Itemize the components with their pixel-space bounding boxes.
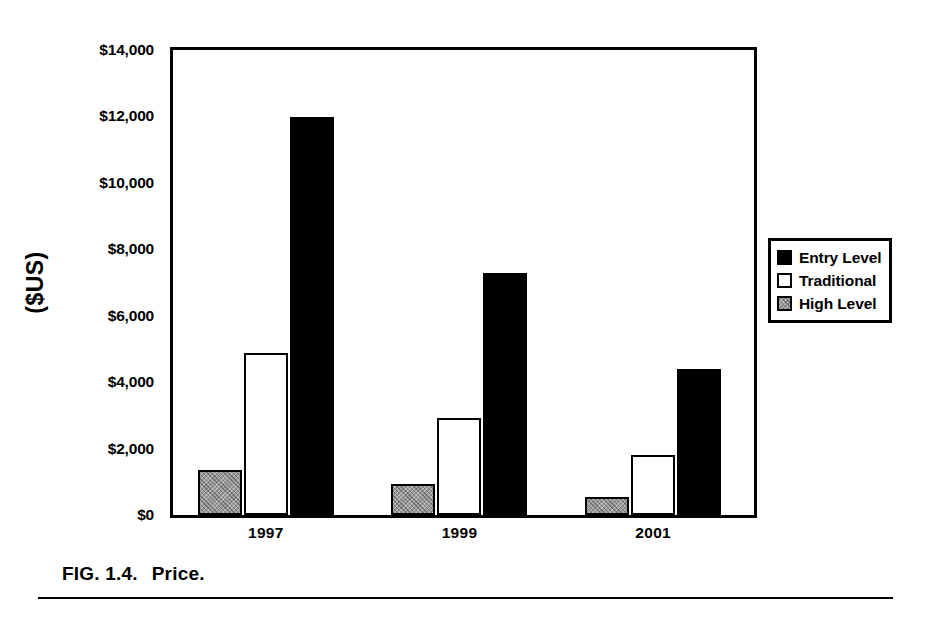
bar — [437, 418, 481, 515]
figure-caption-text: Price. — [152, 563, 205, 584]
figure-caption: FIG. 1.4.Price. — [62, 563, 205, 585]
bar — [677, 369, 721, 515]
chart-legend: Entry LevelTraditionalHigh Level — [768, 238, 892, 323]
y-axis-tick: $10,000 — [0, 174, 162, 192]
bar — [391, 484, 435, 515]
bar — [244, 353, 288, 515]
bar-group — [173, 50, 367, 515]
figure-caption-number: FIG. 1.4. — [62, 563, 138, 584]
y-axis-tick: $14,000 — [0, 41, 162, 59]
y-axis-tick: $8,000 — [0, 240, 162, 258]
legend-swatch-icon — [777, 273, 792, 288]
legend-item: Entry Level — [777, 246, 881, 269]
bar — [198, 470, 242, 516]
y-axis-tick: $0 — [0, 506, 162, 524]
y-axis-tick: $2,000 — [0, 440, 162, 458]
bar — [483, 273, 527, 515]
y-axis-tick: $6,000 — [0, 307, 162, 325]
legend-item-label: High Level — [799, 295, 876, 313]
legend-swatch-icon — [777, 250, 792, 265]
legend-item: Traditional — [777, 269, 881, 292]
x-axis-tick: 1997 — [248, 524, 284, 542]
legend-item-label: Entry Level — [799, 249, 881, 267]
bar — [290, 117, 334, 515]
y-axis-tick: $4,000 — [0, 373, 162, 391]
figure-container: ($US) $0$2,000$4,000$6,000$8,000$10,000$… — [0, 0, 927, 622]
bars-layer — [173, 50, 754, 515]
bar-group — [560, 50, 754, 515]
x-axis-tick-labels: 199719992001 — [170, 524, 757, 552]
x-axis-tick: 1999 — [442, 524, 478, 542]
legend-item-label: Traditional — [799, 272, 876, 290]
bar — [631, 455, 675, 515]
bar-group — [367, 50, 561, 515]
legend-item: High Level — [777, 292, 881, 315]
caption-divider — [38, 597, 893, 599]
y-axis-tick-labels: $0$2,000$4,000$6,000$8,000$10,000$12,000… — [0, 47, 162, 518]
bar — [585, 497, 629, 515]
x-axis-tick: 2001 — [635, 524, 671, 542]
y-axis-tick: $12,000 — [0, 107, 162, 125]
legend-swatch-icon — [777, 296, 792, 311]
